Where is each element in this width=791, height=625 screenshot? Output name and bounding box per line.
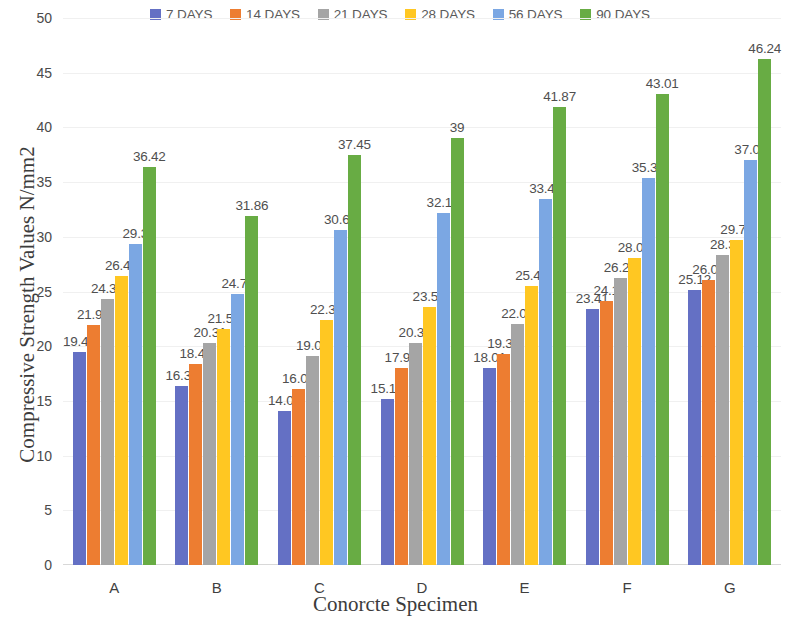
bar[interactable] xyxy=(73,352,86,565)
bar[interactable] xyxy=(231,294,244,565)
bar[interactable] xyxy=(586,309,599,565)
bar-slot: 28.06 xyxy=(628,18,641,565)
bar[interactable] xyxy=(175,386,188,565)
bars: 14.0816.0619.0722.3830.6137.45 xyxy=(277,18,361,565)
bar-slot: 21.54 xyxy=(217,18,230,565)
bar-slot: 29.3 xyxy=(129,18,142,565)
bar-value-label: 43.01 xyxy=(646,76,679,91)
bar[interactable] xyxy=(143,167,156,565)
y-axis-tick-label: 5 xyxy=(44,502,52,518)
bar[interactable] xyxy=(511,324,524,565)
bar[interactable] xyxy=(189,364,202,566)
bar[interactable] xyxy=(217,329,230,565)
bar-slot: 18.01 xyxy=(483,18,496,565)
y-axis-tick-label: 35 xyxy=(36,174,52,190)
bar-slot: 24.1 xyxy=(600,18,613,565)
bar-slot: 24.31 xyxy=(101,18,114,565)
bar[interactable] xyxy=(245,216,258,565)
bar-slot: 39 xyxy=(451,18,464,565)
bar[interactable] xyxy=(716,255,729,565)
bar[interactable] xyxy=(101,299,114,565)
bar[interactable] xyxy=(600,301,613,565)
y-axis-tick-label: 15 xyxy=(36,393,52,409)
bar[interactable] xyxy=(437,213,450,565)
bar-groups: 19.4721.9124.3126.4529.336.42A16.3218.42… xyxy=(63,18,781,565)
bar-slot: 18.42 xyxy=(189,18,202,565)
bar-group: 15.1817.9720.3123.5832.1639D xyxy=(371,18,474,565)
bars: 16.3218.4220.3121.5424.7831.86 xyxy=(175,18,259,565)
bar-slot: 29.75 xyxy=(730,18,743,565)
bar[interactable] xyxy=(628,258,641,565)
bar[interactable] xyxy=(614,278,627,565)
bar[interactable] xyxy=(409,343,422,565)
bar-value-label: 37.45 xyxy=(338,137,371,152)
y-axis-tick-label: 20 xyxy=(36,338,52,354)
bar-slot: 24.78 xyxy=(231,18,244,565)
bar[interactable] xyxy=(642,178,655,565)
bar-slot: 26.25 xyxy=(614,18,627,565)
bar[interactable] xyxy=(553,107,566,565)
bar[interactable] xyxy=(744,160,757,565)
bar-slot: 17.97 xyxy=(395,18,408,565)
bar-slot: 26.45 xyxy=(115,18,128,565)
x-axis-title: Conorcte Specimen xyxy=(0,592,791,617)
bar[interactable] xyxy=(381,399,394,565)
bar-slot: 15.18 xyxy=(381,18,394,565)
bar-slot: 28.3 xyxy=(716,18,729,565)
bar[interactable] xyxy=(688,290,701,565)
bar-slot: 19.47 xyxy=(73,18,86,565)
bar-slot: 25.12 xyxy=(688,18,701,565)
bar-group: 18.0119.3222.0425.4733.4441.87E xyxy=(473,18,576,565)
y-axis-tick-label: 30 xyxy=(36,229,52,245)
bar-slot: 26.01 xyxy=(702,18,715,565)
bar-slot: 46.24 xyxy=(758,18,771,565)
bar-slot: 41.87 xyxy=(553,18,566,565)
bar-value-label: 39 xyxy=(450,120,465,135)
bar-slot: 20.31 xyxy=(203,18,216,565)
bar-slot: 35.38 xyxy=(642,18,655,565)
bar[interactable] xyxy=(115,276,128,565)
bar[interactable] xyxy=(497,354,510,565)
gridline xyxy=(63,565,781,566)
y-axis-tick-label: 10 xyxy=(36,448,52,464)
bar[interactable] xyxy=(656,94,669,565)
bar[interactable] xyxy=(423,307,436,565)
bar[interactable] xyxy=(348,155,361,565)
bars: 25.1226.0128.329.7537.0146.24 xyxy=(688,18,772,565)
bar-slot: 36.42 xyxy=(143,18,156,565)
bar[interactable] xyxy=(483,368,496,565)
y-axis-tick-label: 45 xyxy=(36,65,52,81)
bar-slot: 16.06 xyxy=(292,18,305,565)
bar[interactable] xyxy=(278,411,291,565)
bar[interactable] xyxy=(758,59,771,565)
bar[interactable] xyxy=(702,280,715,565)
bar-group: 19.4721.9124.3126.4529.336.42A xyxy=(63,18,166,565)
bar-value-label: 36.42 xyxy=(133,149,166,164)
bar-slot: 32.16 xyxy=(437,18,450,565)
bar[interactable] xyxy=(203,343,216,565)
bars: 15.1817.9720.3123.5832.1639 xyxy=(380,18,464,565)
bar[interactable] xyxy=(306,356,319,565)
bar-slot: 31.86 xyxy=(245,18,258,565)
bar-value-label: 46.24 xyxy=(748,41,781,56)
bar[interactable] xyxy=(730,240,743,565)
bar-slot: 23.58 xyxy=(423,18,436,565)
bar-slot: 14.08 xyxy=(278,18,291,565)
bar[interactable] xyxy=(451,138,464,565)
bar-slot: 19.07 xyxy=(306,18,319,565)
bars: 18.0119.3222.0425.4733.4441.87 xyxy=(483,18,567,565)
bar[interactable] xyxy=(525,286,538,565)
bar-slot: 22.38 xyxy=(320,18,333,565)
bar[interactable] xyxy=(334,230,347,565)
bar[interactable] xyxy=(539,199,552,565)
bar[interactable] xyxy=(129,244,142,565)
y-axis-tick-label: 40 xyxy=(36,119,52,135)
bar[interactable] xyxy=(320,320,333,565)
bar-group: 14.0816.0619.0722.3830.6137.45C xyxy=(268,18,371,565)
bars: 23.4124.126.2528.0635.3843.01 xyxy=(585,18,669,565)
bar[interactable] xyxy=(292,389,305,565)
bar[interactable] xyxy=(395,368,408,565)
bar-slot: 37.01 xyxy=(744,18,757,565)
bar-slot: 30.61 xyxy=(334,18,347,565)
bar[interactable] xyxy=(87,325,100,565)
